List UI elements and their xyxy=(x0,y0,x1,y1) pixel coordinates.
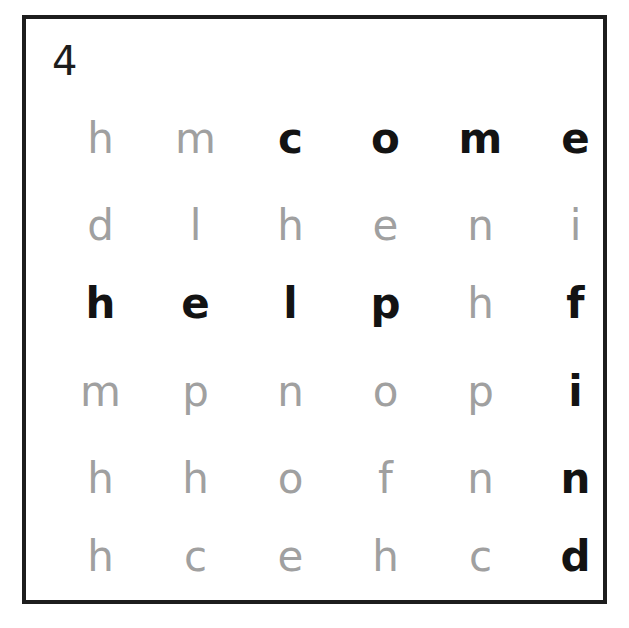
grid-row: h e l p h f xyxy=(26,274,603,334)
grid-row: h h o f n n xyxy=(26,449,603,509)
grid-cell[interactable]: m xyxy=(148,109,243,169)
grid-cell[interactable]: i xyxy=(528,196,623,256)
grid-cell[interactable]: d xyxy=(528,527,623,587)
grid-cell[interactable]: o xyxy=(338,362,433,422)
grid-cell[interactable]: c xyxy=(243,109,338,169)
grid-cell[interactable]: i xyxy=(528,362,623,422)
grid-cell[interactable]: n xyxy=(433,449,528,509)
grid-cell[interactable]: l xyxy=(148,196,243,256)
grid-cell[interactable]: m xyxy=(433,109,528,169)
grid-cell[interactable]: p xyxy=(433,362,528,422)
grid-cell[interactable]: n xyxy=(433,196,528,256)
letter-grid: h m c o m e d l h e n i h e l p h f m p … xyxy=(26,19,603,600)
grid-cell[interactable]: h xyxy=(53,274,148,334)
grid-cell[interactable]: h xyxy=(53,109,148,169)
grid-cell[interactable]: h xyxy=(338,527,433,587)
grid-cell[interactable]: e xyxy=(243,527,338,587)
grid-cell[interactable]: n xyxy=(243,362,338,422)
grid-cell[interactable]: h xyxy=(53,449,148,509)
grid-cell[interactable]: e xyxy=(528,109,623,169)
word-search-card: 4 h m c o m e d l h e n i h e l p h f xyxy=(22,15,607,604)
grid-cell[interactable]: d xyxy=(53,196,148,256)
grid-row: d l h e n i xyxy=(26,196,603,256)
grid-row: h m c o m e xyxy=(26,109,603,169)
grid-cell[interactable]: h xyxy=(243,196,338,256)
grid-cell[interactable]: e xyxy=(338,196,433,256)
grid-cell[interactable]: n xyxy=(528,449,623,509)
grid-cell[interactable]: c xyxy=(433,527,528,587)
grid-cell[interactable]: p xyxy=(148,362,243,422)
grid-cell[interactable]: e xyxy=(148,274,243,334)
grid-cell[interactable]: o xyxy=(243,449,338,509)
grid-row: h c e h c d xyxy=(26,527,603,587)
grid-row: m p n o p i xyxy=(26,362,603,422)
grid-cell[interactable]: l xyxy=(243,274,338,334)
grid-cell[interactable]: o xyxy=(338,109,433,169)
grid-cell[interactable]: h xyxy=(148,449,243,509)
grid-cell[interactable]: h xyxy=(53,527,148,587)
grid-cell[interactable]: p xyxy=(338,274,433,334)
grid-cell[interactable]: f xyxy=(528,274,623,334)
grid-cell[interactable]: f xyxy=(338,449,433,509)
grid-cell[interactable]: c xyxy=(148,527,243,587)
grid-cell[interactable]: m xyxy=(53,362,148,422)
grid-cell[interactable]: h xyxy=(433,274,528,334)
